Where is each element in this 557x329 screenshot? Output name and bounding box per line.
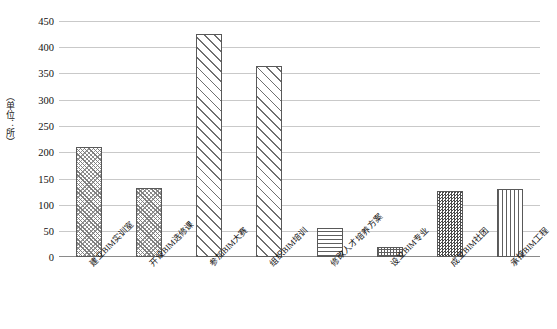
gridline-450 bbox=[59, 21, 540, 22]
gridline-100 bbox=[59, 205, 540, 206]
gridline-350 bbox=[59, 73, 540, 74]
y-tick-400: 400 bbox=[10, 42, 54, 53]
gridline-200 bbox=[59, 152, 540, 153]
bar-3 bbox=[196, 34, 222, 257]
y-tick-0: 0 bbox=[10, 252, 54, 263]
y-tick-350: 350 bbox=[10, 68, 54, 79]
y-tick-150: 150 bbox=[10, 174, 54, 185]
bar-4 bbox=[256, 66, 282, 257]
x-axis-category-labels: 建立BIM实训室开设BIM选修课参加BIM大赛组织BIM培训修改人才培养方案设立… bbox=[59, 261, 540, 329]
gridline-150 bbox=[59, 179, 540, 180]
y-tick-450: 450 bbox=[10, 16, 54, 27]
y-axis-tick-labels: 450 400 350 300 250 200 150 100 50 0 bbox=[0, 0, 54, 329]
bar-chart: （单位：所） 450 400 350 300 250 200 150 100 5… bbox=[0, 0, 557, 329]
bar-7 bbox=[437, 191, 463, 257]
y-tick-250: 250 bbox=[10, 121, 54, 132]
bar-8 bbox=[497, 189, 523, 257]
gridline-400 bbox=[59, 47, 540, 48]
gridline-250 bbox=[59, 126, 540, 127]
y-tick-50: 50 bbox=[10, 226, 54, 237]
y-tick-300: 300 bbox=[10, 95, 54, 106]
gridline-300 bbox=[59, 100, 540, 101]
bar-1 bbox=[76, 147, 102, 257]
axis-baseline bbox=[59, 256, 540, 257]
y-tick-200: 200 bbox=[10, 147, 54, 158]
bar-2 bbox=[136, 188, 162, 257]
y-tick-100: 100 bbox=[10, 200, 54, 211]
